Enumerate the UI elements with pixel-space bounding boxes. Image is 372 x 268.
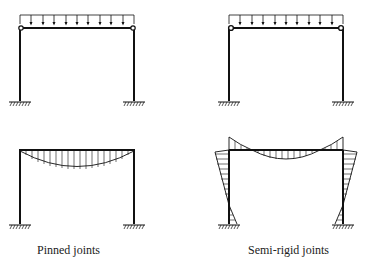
semi-rigid-frame-loaded [218,15,354,106]
pinned-moment-diagram [9,150,145,229]
pinned-frame-loaded [9,15,145,106]
semi-rigid-moment-diagram [215,137,357,229]
frames-diagram [0,0,372,268]
pinned-joints-label: Pinned joints [37,243,100,258]
semi-rigid-joints-label: Semi-rigid joints [248,243,329,258]
